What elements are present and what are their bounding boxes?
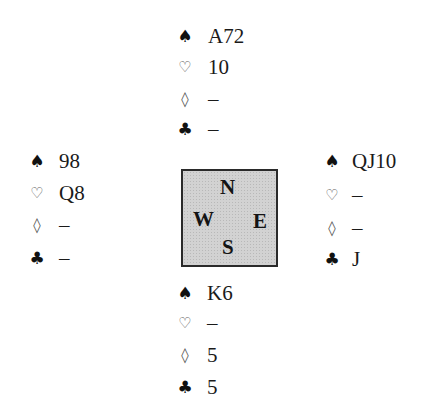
diamond-icon: ◊ bbox=[177, 87, 193, 111]
east-diamonds-cards: – bbox=[352, 216, 363, 240]
east-clubs-cards: J bbox=[352, 247, 360, 271]
west-spades-cards: 98 bbox=[59, 149, 80, 173]
heart-icon: ♡ bbox=[177, 55, 193, 79]
compass-north-label: N bbox=[220, 177, 235, 198]
club-icon: ♣ bbox=[324, 247, 340, 271]
compass-south-label: S bbox=[222, 237, 234, 258]
west-clubs-cards: – bbox=[59, 246, 70, 270]
spade-icon: ♠ bbox=[177, 281, 193, 305]
club-icon: ♣ bbox=[29, 246, 45, 270]
spade-icon: ♠ bbox=[177, 24, 193, 48]
club-icon: ♣ bbox=[177, 117, 193, 141]
diamond-icon: ◊ bbox=[29, 213, 45, 237]
south-spades-cards: K6 bbox=[207, 281, 233, 305]
diamond-icon: ◊ bbox=[324, 216, 340, 240]
heart-icon: ♡ bbox=[324, 183, 340, 207]
compass-east-label: E bbox=[253, 211, 267, 232]
spade-icon: ♠ bbox=[29, 149, 45, 173]
compass-box: N W E S bbox=[181, 169, 278, 267]
south-hearts-cards: – bbox=[207, 311, 218, 335]
north-diamonds-cards: – bbox=[208, 87, 219, 111]
south-diamonds-cards: 5 bbox=[207, 343, 218, 367]
north-clubs-cards: – bbox=[208, 117, 219, 141]
heart-icon: ♡ bbox=[177, 311, 193, 335]
west-hearts-cards: Q8 bbox=[59, 181, 85, 205]
south-clubs-cards: 5 bbox=[207, 375, 218, 399]
north-spades-cards: A72 bbox=[208, 24, 244, 48]
club-icon: ♣ bbox=[177, 375, 193, 399]
heart-icon: ♡ bbox=[29, 181, 45, 205]
east-hearts-cards: – bbox=[352, 183, 363, 207]
spade-icon: ♠ bbox=[324, 149, 340, 173]
west-diamonds-cards: – bbox=[59, 213, 70, 237]
east-spades-cards: QJ10 bbox=[352, 149, 396, 173]
north-hearts-cards: 10 bbox=[208, 55, 229, 79]
diamond-icon: ◊ bbox=[177, 343, 193, 367]
compass-west-label: W bbox=[193, 209, 214, 230]
